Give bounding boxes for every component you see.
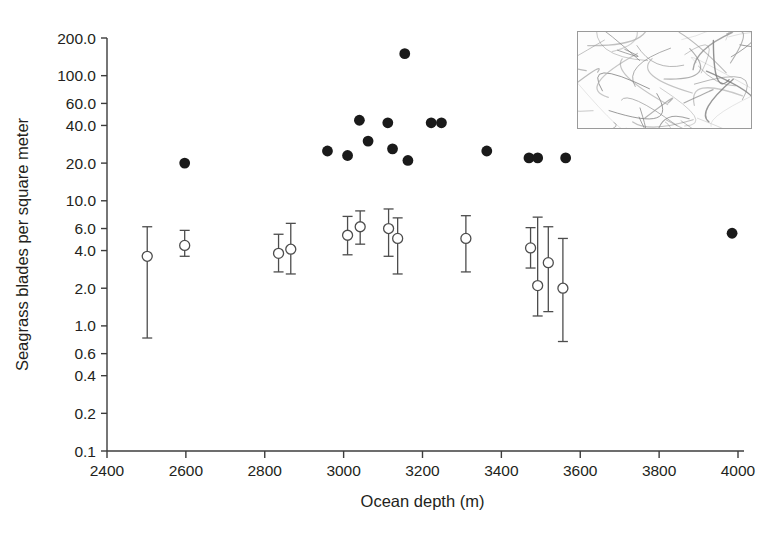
data-point-filled xyxy=(179,158,190,169)
y-axis-tick-label: 6.0 xyxy=(74,220,96,237)
data-point-filled xyxy=(481,146,492,157)
y-axis-tick-label: 10.0 xyxy=(66,192,97,209)
y-axis-tick-label: 60.0 xyxy=(66,95,97,112)
data-point-open xyxy=(142,251,152,261)
y-axis-tick-label: 40.0 xyxy=(66,117,97,134)
y-axis-tick-label: 0.2 xyxy=(74,405,96,422)
data-point-open xyxy=(343,230,353,240)
data-point-open xyxy=(180,240,190,250)
x-axis-tick-label: 3800 xyxy=(642,462,677,479)
x-axis-title: Ocean depth (m) xyxy=(361,492,485,510)
y-axis-tick-label: 0.6 xyxy=(74,345,96,362)
data-point-open xyxy=(533,281,543,291)
x-axis-tick-label: 3600 xyxy=(563,462,598,479)
data-point-open xyxy=(286,244,296,254)
x-axis-tick-label: 2400 xyxy=(90,462,125,479)
data-point-filled xyxy=(342,150,353,161)
data-point-filled xyxy=(382,117,393,128)
x-axis-tick-label: 3000 xyxy=(326,462,361,479)
y-axis-tick-label: 2.0 xyxy=(74,280,96,297)
x-axis-tick-label: 3400 xyxy=(484,462,519,479)
series-open-points-with-error-bars xyxy=(142,209,568,342)
data-point-filled xyxy=(532,153,543,164)
data-point-filled xyxy=(354,115,365,126)
data-point-open xyxy=(461,233,471,243)
x-axis-tick-label: 2600 xyxy=(169,462,204,479)
data-point-filled xyxy=(436,117,447,128)
y-axis-tick-label: 200.0 xyxy=(57,30,96,47)
data-point-filled xyxy=(322,146,333,157)
y-axis-tick-label: 1.0 xyxy=(74,317,96,334)
y-axis-tick-label: 100.0 xyxy=(57,67,96,84)
y-axis-tick-label: 0.4 xyxy=(74,367,96,384)
data-point-filled xyxy=(560,153,571,164)
data-point-filled xyxy=(363,136,374,147)
y-axis-title: Seagrass blades per square meter xyxy=(13,117,31,371)
y-axis-tick-label: 0.1 xyxy=(74,443,96,460)
data-point-filled xyxy=(399,48,410,59)
data-point-open xyxy=(543,258,553,268)
x-axis-tick-label: 2800 xyxy=(248,462,283,479)
inset-seagrass-photo-panel xyxy=(577,31,752,129)
data-point-filled xyxy=(727,228,738,239)
data-point-open xyxy=(384,224,394,234)
x-axis-tick-label: 4000 xyxy=(721,462,756,479)
x-axis-tick-label: 3200 xyxy=(405,462,440,479)
data-point-open xyxy=(393,233,403,243)
data-point-filled xyxy=(426,117,437,128)
data-point-open xyxy=(355,222,365,232)
data-point-open xyxy=(558,283,568,293)
data-point-open xyxy=(274,248,284,258)
seagrass-blades-image xyxy=(578,32,751,128)
data-point-filled xyxy=(387,143,398,154)
y-axis-tick-label: 20.0 xyxy=(66,155,97,172)
data-point-filled xyxy=(403,155,414,166)
data-point-open xyxy=(526,243,536,253)
figure: 200.0100.060.040.020.010.06.04.02.01.00.… xyxy=(0,0,783,536)
y-axis-tick-label: 4.0 xyxy=(74,242,96,259)
